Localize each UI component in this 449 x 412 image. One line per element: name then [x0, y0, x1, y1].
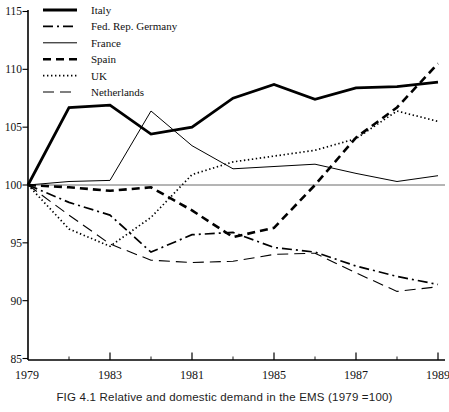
- figure: 8590951001051101151979198319811985198719…: [0, 0, 449, 412]
- y-tick-label-105: 105: [5, 121, 23, 133]
- y-tick-label-85: 85: [11, 353, 23, 365]
- y-tick-label-95: 95: [11, 237, 23, 249]
- x-tick-label-1979: 1979: [15, 368, 39, 382]
- legend-label-italy: Italy: [91, 4, 112, 16]
- series-line-uk: [28, 111, 438, 246]
- y-tick-label-115: 115: [5, 5, 22, 17]
- series-line-fed-rep-germany: [28, 185, 438, 285]
- series-line-italy: [28, 82, 438, 185]
- legend-label-netherlands: Netherlands: [91, 86, 144, 98]
- legend-label-france: France: [91, 37, 121, 49]
- x-tick-label-1987: 1987: [344, 368, 368, 382]
- legend-label-fed-rep-germany: Fed. Rep. Germany: [91, 20, 178, 32]
- x-tick-label-1981: 1981: [180, 368, 204, 382]
- x-tick-label-1985: 1985: [262, 368, 286, 382]
- x-tick-label-1989: 1989: [426, 368, 449, 382]
- line-chart: 8590951001051101151979198319811985198719…: [0, 0, 449, 412]
- y-tick-label-90: 90: [11, 295, 23, 307]
- legend-label-uk: UK: [91, 70, 107, 82]
- x-tick-label-1983: 1983: [98, 368, 122, 382]
- figure-caption: FIG 4.1 Relative and domestic demand in …: [0, 391, 449, 403]
- legend-label-spain: Spain: [91, 53, 117, 65]
- y-tick-label-110: 110: [5, 63, 22, 75]
- y-tick-label-100: 100: [5, 179, 23, 191]
- series-line-spain: [28, 64, 438, 238]
- series-line-netherlands: [28, 185, 438, 291]
